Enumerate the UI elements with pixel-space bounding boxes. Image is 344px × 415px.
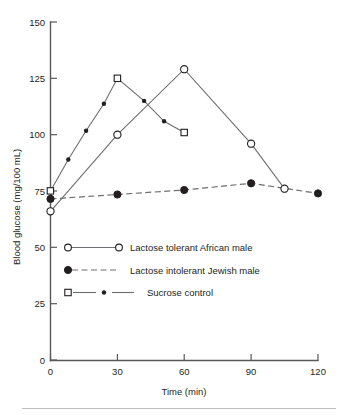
tolerant-marker-0 xyxy=(47,208,54,215)
legend-open-circle-icon xyxy=(65,244,72,251)
intolerant-marker-30 xyxy=(114,191,121,198)
x-axis-title: Time (min) xyxy=(161,386,206,397)
intolerant-marker-0 xyxy=(47,195,54,202)
y-tick-label-100: 100 xyxy=(29,129,45,140)
intolerant-marker-120 xyxy=(314,190,321,197)
y-tick-label-25: 25 xyxy=(34,298,45,309)
glucose-tolerance-chart: 150 125 100 75 50 25 0 Blood glucose (mg… xyxy=(0,0,344,415)
legend-label-lactose-intolerant: Lactose intolerant Jewish male xyxy=(130,265,260,276)
sucrose-dot-16 xyxy=(84,129,88,133)
x-tick-label-120: 120 xyxy=(310,366,326,377)
chart-svg: 150 125 100 75 50 25 0 Blood glucose (mg… xyxy=(0,0,344,415)
legend-open-circle-icon-end xyxy=(116,244,123,251)
x-tick-label-30: 30 xyxy=(112,366,123,377)
sucrose-dot-8 xyxy=(66,157,70,161)
legend-small-dot-icon xyxy=(102,290,106,294)
legend-filled-circle-icon xyxy=(64,266,71,273)
sucrose-dot-51 xyxy=(162,119,166,123)
y-tick-label-150: 150 xyxy=(29,17,45,28)
legend-label-lactose-tolerant: Lactose tolerant African male xyxy=(130,242,253,253)
y-tick-label-75: 75 xyxy=(34,186,45,197)
x-tick-label-90: 90 xyxy=(246,366,257,377)
x-tick-label-0: 0 xyxy=(48,366,53,377)
sucrose-marker-30 xyxy=(114,75,120,81)
intolerant-marker-90 xyxy=(248,180,255,187)
y-tick-label-125: 125 xyxy=(29,73,45,84)
legend-label-sucrose-control: Sucrose control xyxy=(147,287,213,298)
y-axis-title: Blood glucose (mg/100 mL) xyxy=(11,149,22,265)
tolerant-marker-60 xyxy=(181,66,188,73)
sucrose-marker-0 xyxy=(47,188,53,194)
y-tick-label-50: 50 xyxy=(34,242,45,253)
sucrose-marker-60 xyxy=(181,129,187,135)
legend-item-lactose-tolerant[interactable]: Lactose tolerant African male xyxy=(65,242,253,253)
legend-item-sucrose-control[interactable]: Sucrose control xyxy=(65,287,213,298)
intolerant-marker-60 xyxy=(181,186,188,193)
sucrose-dot-42 xyxy=(142,99,146,103)
x-axis: 0 30 60 90 120 Time (min) xyxy=(48,354,326,397)
legend-item-lactose-intolerant[interactable]: Lactose intolerant Jewish male xyxy=(64,265,260,276)
y-tick-label-0: 0 xyxy=(40,355,45,366)
series-lactose-tolerant xyxy=(47,66,288,215)
x-tick-label-60: 60 xyxy=(179,366,190,377)
tolerant-marker-30 xyxy=(114,131,121,138)
legend-open-square-icon xyxy=(65,289,71,295)
legend: Lactose tolerant African male Lactose in… xyxy=(64,242,260,298)
sucrose-dot-24 xyxy=(102,102,106,106)
tolerant-marker-105 xyxy=(281,185,288,192)
tolerant-marker-90 xyxy=(248,140,255,147)
